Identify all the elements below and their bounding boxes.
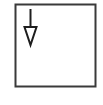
diagram-canvas bbox=[0, 0, 103, 105]
square-box bbox=[16, 5, 96, 87]
